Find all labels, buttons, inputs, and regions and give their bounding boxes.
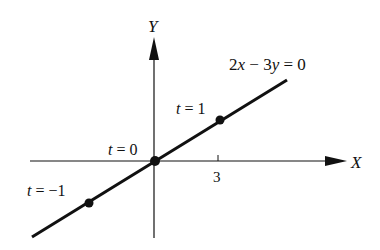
point-label-t-1: t = 1: [176, 100, 205, 117]
equation-label: 2x − 3y = 0: [229, 55, 306, 74]
point-t-1: [216, 116, 225, 125]
x-tick-label-3: 3: [213, 169, 221, 185]
x-axis-label: X: [350, 153, 362, 172]
point-label-t-0: t = 0: [108, 141, 137, 158]
point-label-t-minus-1: t = −1: [27, 182, 66, 199]
equation-line: [32, 80, 287, 237]
y-axis-label: Y: [148, 17, 159, 36]
parametric-line-diagram: Y X 3 2x − 3y = 0 t = 1 t = 0 t = −1: [0, 0, 380, 250]
y-axis-arrow-icon: [149, 37, 159, 60]
x-axis-arrow-icon: [325, 156, 347, 166]
point-t-minus-1: [85, 199, 94, 208]
point-t-0: [150, 156, 160, 166]
